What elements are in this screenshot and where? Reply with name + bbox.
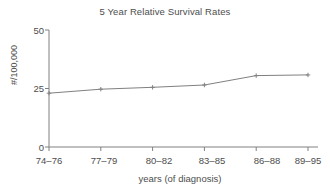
- survival-rates-chart: 5 Year Relative Survival Rates #/100,000…: [0, 0, 330, 195]
- data-point-markers: [47, 73, 310, 96]
- data-series-line: [49, 75, 308, 93]
- x-axis-ticks: [49, 147, 308, 151]
- plot-area: [0, 0, 330, 195]
- y-axis-ticks: [45, 30, 49, 147]
